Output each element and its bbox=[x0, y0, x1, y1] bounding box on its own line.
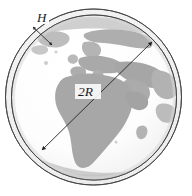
globe-diagram-svg: 2R H bbox=[0, 0, 192, 196]
globe-diagram-figure: 2R H bbox=[0, 0, 192, 196]
earth-diameter-label: 2R bbox=[78, 84, 94, 99]
indian-ocean-speck bbox=[115, 141, 118, 144]
atmosphere-thickness-label: H bbox=[36, 10, 47, 25]
atlantic-speck-1 bbox=[44, 61, 48, 65]
atlantic-speck-2 bbox=[54, 50, 57, 53]
